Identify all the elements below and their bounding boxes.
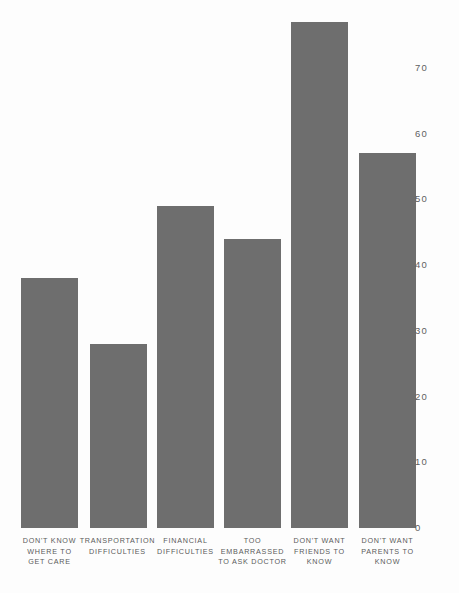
y-tick-label-30: 30 [415,326,445,336]
x-category-label-line: GET CARE [4,557,95,568]
y-tick-label-70: 70 [415,63,445,73]
bar-dont-want-parents-to-know [359,153,416,528]
x-axis: DON'T KNOWWHERE TOGET CARE TRANSPORTATIO… [0,536,421,584]
y-tick-label-0: 0 [415,523,445,533]
x-category-label-dont-want-parents-to-know: DON'T WANTPARENTS TOKNOW [342,536,433,568]
bar-too-embarrassed-to-ask-doctor [224,239,281,528]
bar-transportation-difficulties [90,344,147,528]
plot-area [0,0,421,533]
y-tick-label-20: 20 [415,392,445,402]
bar-dont-know-where-to-get-care [21,278,78,528]
scan-artifact-strip [0,583,459,593]
bar-chart: 0 10 20 30 40 50 60 70 DON'T KNOWWHERE T… [0,0,459,593]
x-category-label-line: PARENTS TO [342,547,433,558]
y-tick-label-10: 10 [415,457,445,467]
y-tick-label-40: 40 [415,260,445,270]
y-tick-label-60: 60 [415,129,445,139]
y-axis: 0 10 20 30 40 50 60 70 [415,0,459,593]
y-tick-label-50: 50 [415,194,445,204]
x-category-label-line: KNOW [342,557,433,568]
bar-financial-difficulties [157,206,214,528]
x-category-label-line: DON'T WANT [342,536,433,547]
bar-dont-want-friends-to-know [291,22,348,528]
